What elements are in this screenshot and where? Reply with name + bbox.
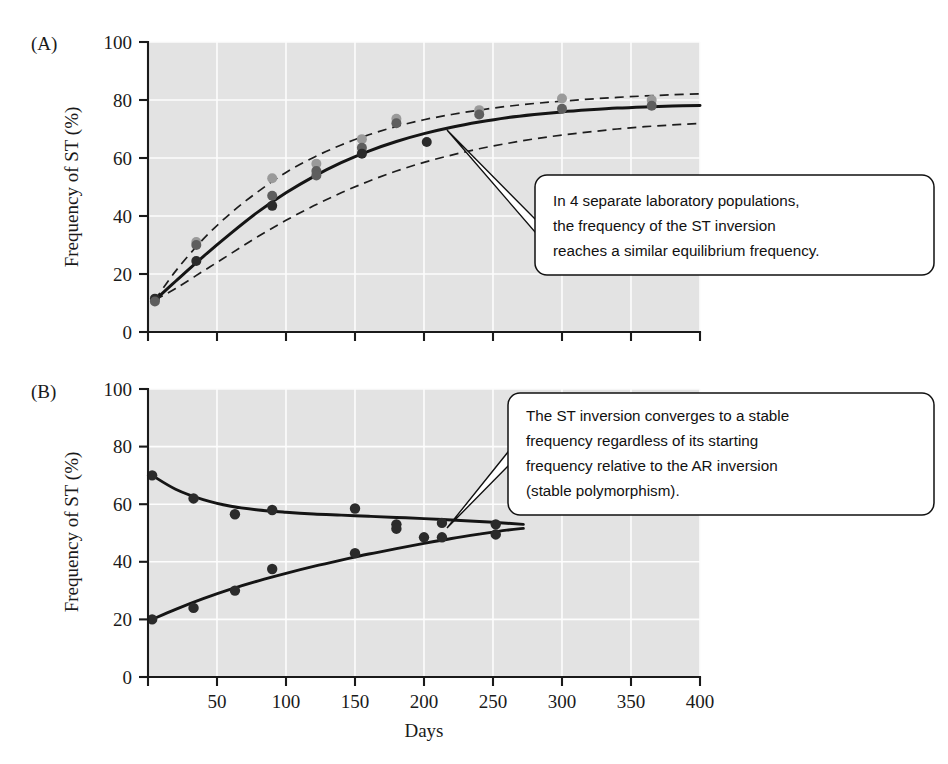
panel-b-x-tick-label: 400 <box>686 691 715 712</box>
data-point <box>188 603 198 613</box>
panel-b-y-tick-labels: 020406080100 <box>104 379 133 688</box>
panel-a-callout-line-2: the frequency of the ST inversion <box>553 217 776 234</box>
data-point <box>230 509 240 519</box>
panel-b-x-tick-label: 50 <box>208 691 227 712</box>
data-point <box>391 523 401 533</box>
panel-a-y-tick-label: 60 <box>113 148 132 169</box>
panel-b-y-tick-label: 60 <box>113 494 132 515</box>
data-point <box>230 585 240 595</box>
data-point <box>191 240 201 250</box>
panel-a-y-tick-labels: 020406080100 <box>104 32 133 343</box>
two-panel-frequency-figure: (A) Frequency of ST (%) 020406080100 In … <box>0 0 948 764</box>
panel-b-callout-line-1: The ST inversion converges to a stable <box>526 407 789 424</box>
panel-b-y-tick-label: 100 <box>104 379 133 400</box>
data-point <box>557 104 567 114</box>
data-point <box>267 505 277 515</box>
figure-root: (A) Frequency of ST (%) 020406080100 In … <box>0 0 948 764</box>
panel-b-x-tick-label: 200 <box>410 691 439 712</box>
panel-b-callout-line-4: (stable polymorphism). <box>526 482 680 499</box>
data-point <box>357 149 367 159</box>
data-point <box>391 118 401 128</box>
panel-a-callout-line-1: In 4 separate laboratory populations, <box>553 192 800 209</box>
panel-b-y-tick-label: 80 <box>113 436 132 457</box>
panel-b-x-tick-label: 250 <box>479 691 508 712</box>
data-point <box>491 519 501 529</box>
panel-b-y-tick-label: 0 <box>123 667 133 688</box>
data-point <box>557 94 567 104</box>
panel-b-y-tick-label: 40 <box>113 551 132 572</box>
data-point <box>647 101 657 111</box>
panel-b-x-axis-title: Days <box>404 720 443 741</box>
panel-a-y-axis-title: Frequency of ST (%) <box>61 107 83 268</box>
panel-b: (B) Frequency of ST (%) 020406080100 501… <box>31 379 934 742</box>
panel-b-y-axis-title: Frequency of ST (%) <box>61 452 83 613</box>
panel-a-y-tick-label: 0 <box>123 322 133 343</box>
data-point <box>474 110 484 120</box>
panel-b-label: (B) <box>31 381 56 403</box>
data-point <box>267 201 277 211</box>
data-point <box>491 529 501 539</box>
panel-a-callout-line-3: reaches a similar equilibrium frequency. <box>553 242 819 259</box>
data-point <box>350 503 360 513</box>
panel-b-x-tick-label: 100 <box>272 691 301 712</box>
data-point <box>422 137 432 147</box>
panel-a-label: (A) <box>31 33 57 55</box>
panel-a: (A) Frequency of ST (%) 020406080100 In … <box>31 32 934 343</box>
panel-b-x-tick-label: 350 <box>617 691 646 712</box>
panel-b-callout: The ST inversion converges to a stable f… <box>447 393 934 528</box>
data-point <box>437 518 447 528</box>
panel-b-x-tick-label: 150 <box>341 691 370 712</box>
panel-b-x-tick-label: 300 <box>548 691 577 712</box>
data-point <box>419 532 429 542</box>
data-point <box>437 532 447 542</box>
panel-a-y-tick-label: 40 <box>113 206 132 227</box>
data-point <box>267 191 277 201</box>
panel-b-x-tick-labels: 50100150200250300350400 <box>208 691 715 712</box>
data-point <box>267 564 277 574</box>
data-point <box>191 256 201 266</box>
panel-a-y-tick-label: 20 <box>113 264 132 285</box>
data-point <box>267 173 277 183</box>
data-point <box>150 297 160 307</box>
data-point <box>188 493 198 503</box>
panel-a-y-tick-label: 80 <box>113 90 132 111</box>
panel-a-y-tick-label: 100 <box>104 32 133 53</box>
panel-b-callout-line-3: frequency relative to the AR inversion <box>526 457 778 474</box>
data-point <box>311 170 321 180</box>
data-point <box>350 548 360 558</box>
panel-b-callout-line-2: frequency regardless of its starting <box>526 432 758 449</box>
data-point <box>357 134 367 144</box>
panel-b-y-tick-label: 20 <box>113 609 132 630</box>
